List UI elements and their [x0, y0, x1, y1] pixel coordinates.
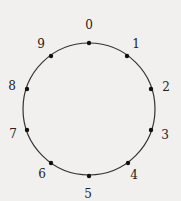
point-3-dot — [149, 128, 153, 132]
point-8-dot — [25, 87, 29, 91]
point-9-dot — [49, 54, 53, 58]
point-0-label: 0 — [85, 18, 93, 32]
point-1-label: 1 — [132, 37, 140, 51]
point-3-label: 3 — [161, 128, 169, 142]
circle-diagram: 0123456789 — [0, 0, 181, 201]
point-4-dot — [126, 161, 130, 165]
point-9-label: 9 — [37, 37, 45, 51]
point-1-dot — [125, 54, 129, 58]
point-8-label: 8 — [8, 79, 16, 93]
point-2-label: 2 — [162, 80, 170, 94]
point-4-label: 4 — [130, 168, 138, 182]
point-6-label: 6 — [38, 167, 46, 181]
point-2-dot — [149, 87, 153, 91]
point-5-label: 5 — [84, 187, 92, 201]
point-6-dot — [49, 161, 53, 165]
point-5-dot — [87, 174, 91, 178]
point-7-label: 7 — [9, 127, 17, 141]
circle — [23, 43, 155, 175]
points-group: 0123456789 — [8, 18, 170, 201]
point-0-dot — [87, 41, 91, 45]
point-7-dot — [25, 128, 29, 132]
